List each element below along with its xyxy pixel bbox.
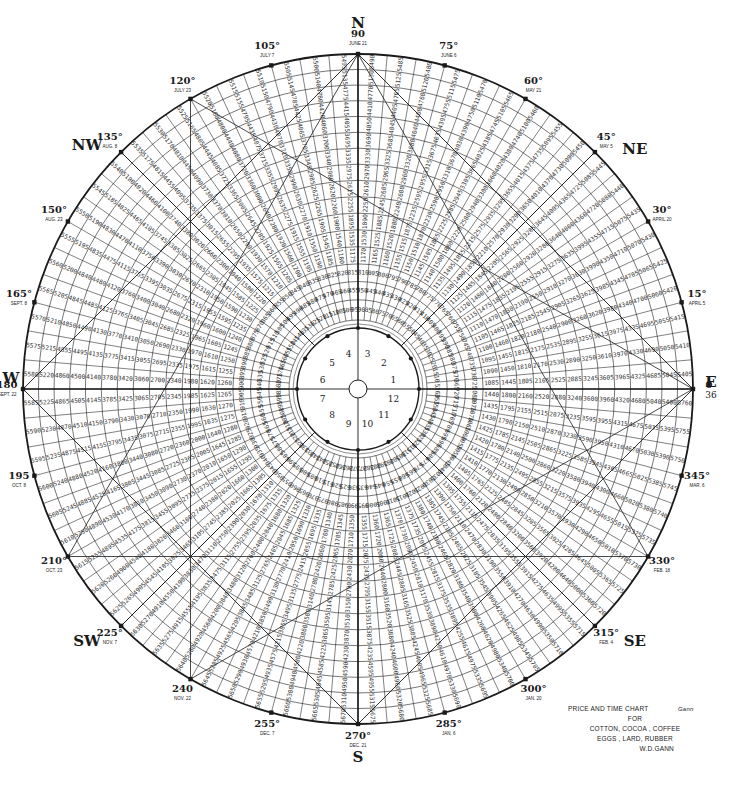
svg-text:3060: 3060: [134, 375, 149, 383]
svg-text:2850: 2850: [519, 489, 536, 503]
date-label: OCT. 8: [12, 483, 27, 488]
svg-text:4840: 4840: [76, 269, 93, 281]
svg-text:1625: 1625: [200, 391, 215, 399]
svg-text:2610: 2610: [362, 181, 370, 196]
svg-text:1805: 1805: [518, 377, 533, 385]
svg-text:3150: 3150: [344, 598, 352, 613]
sector-label: 6: [320, 375, 326, 385]
sector-label: 12: [388, 394, 399, 404]
svg-text:4150: 4150: [88, 418, 104, 427]
svg-text:1880: 1880: [388, 217, 398, 233]
svg-text:2520: 2520: [534, 392, 549, 400]
svg-text:2045: 2045: [273, 529, 286, 546]
svg-text:2055: 2055: [301, 540, 312, 557]
svg-text:3965: 3965: [615, 373, 630, 381]
svg-text:3355: 3355: [264, 165, 276, 182]
svg-text:5205: 5205: [53, 289, 70, 300]
svg-text:2080: 2080: [376, 547, 385, 563]
degree-label: 150°: [41, 204, 67, 215]
svg-text:1710: 1710: [347, 532, 355, 547]
svg-text:815: 815: [347, 268, 359, 276]
svg-text:4665: 4665: [617, 467, 634, 478]
svg-text:4220: 4220: [295, 639, 305, 655]
svg-text:2410: 2410: [281, 550, 293, 567]
svg-text:4340: 4340: [617, 298, 634, 309]
svg-text:2180: 2180: [525, 327, 542, 338]
svg-text:1990: 1990: [184, 406, 200, 415]
svg-text:2535: 2535: [545, 340, 561, 350]
svg-text:3145: 3145: [324, 596, 333, 612]
svg-text:4480: 4480: [91, 275, 108, 287]
svg-text:4060: 4060: [320, 119, 329, 135]
svg-text:2910: 2910: [542, 282, 559, 295]
svg-text:3875: 3875: [366, 630, 374, 645]
svg-text:3525: 3525: [404, 608, 414, 624]
svg-text:2500: 2500: [520, 453, 537, 465]
svg-text:1245: 1245: [223, 342, 240, 353]
svg-text:4435: 4435: [245, 121, 257, 138]
date-label: JAN. 20: [525, 696, 542, 701]
svg-text:1535: 1535: [348, 231, 356, 246]
svg-text:1350: 1350: [348, 515, 356, 530]
svg-text:2820: 2820: [445, 558, 458, 575]
svg-text:3170: 3170: [418, 587, 429, 604]
svg-text:5660: 5660: [281, 700, 291, 716]
svg-text:4835: 4835: [87, 245, 104, 258]
svg-text:810: 810: [357, 268, 369, 276]
author-signature: Gann: [678, 704, 693, 714]
svg-text:2405: 2405: [266, 543, 279, 560]
svg-text:1280: 1280: [222, 423, 239, 434]
date-label: SEPT. 22: [0, 392, 17, 397]
degree-label: 255°: [254, 718, 280, 729]
svg-text:4610: 4610: [437, 648, 448, 665]
svg-text:5465: 5465: [502, 90, 515, 107]
svg-text:1840: 1840: [482, 279, 498, 294]
price-time-wheel: 5101520253035404550556065707580859095100…: [0, 0, 737, 795]
svg-text:1685: 1685: [281, 514, 294, 531]
svg-text:3675: 3675: [426, 143, 437, 160]
svg-text:5570: 5570: [31, 312, 47, 322]
svg-text:5060: 5060: [647, 289, 664, 300]
svg-text:5520: 5520: [201, 90, 214, 107]
svg-text:4330: 4330: [628, 347, 644, 356]
svg-text:3890: 3890: [428, 618, 439, 635]
svg-text:1975: 1975: [184, 362, 200, 371]
svg-text:905: 905: [237, 388, 245, 400]
svg-text:2470: 2470: [463, 526, 478, 542]
svg-text:5210: 5210: [46, 316, 62, 326]
svg-text:805: 805: [367, 269, 379, 277]
svg-text:2880: 2880: [551, 393, 566, 401]
svg-text:3505: 3505: [322, 612, 331, 628]
svg-text:1240: 1240: [227, 331, 244, 343]
svg-text:2085: 2085: [390, 544, 400, 560]
svg-text:3685: 3685: [385, 134, 394, 150]
degree-label: 30°: [653, 204, 672, 215]
svg-text:3325: 3325: [383, 150, 392, 166]
svg-text:3955: 3955: [597, 416, 613, 425]
svg-text:2270: 2270: [298, 205, 309, 222]
svg-text:1520: 1520: [385, 233, 395, 249]
svg-text:5200: 5200: [62, 263, 79, 275]
compass-e: E: [705, 373, 716, 391]
svg-text:1965: 1965: [190, 332, 207, 343]
date-label: APRIL 20: [652, 217, 672, 222]
svg-text:1885: 1885: [375, 215, 384, 231]
svg-text:2800: 2800: [381, 580, 390, 596]
svg-text:5590: 5590: [26, 426, 42, 435]
svg-text:2680: 2680: [165, 305, 182, 317]
svg-text:2860: 2860: [535, 459, 552, 471]
svg-text:3160: 3160: [383, 596, 392, 612]
svg-text:1810: 1810: [516, 362, 532, 371]
svg-text:1165: 1165: [370, 248, 379, 264]
svg-text:2785: 2785: [327, 579, 336, 595]
svg-text:2280: 2280: [267, 217, 280, 234]
svg-text:1640: 1640: [206, 428, 223, 439]
degree-label: 300°: [521, 683, 547, 694]
svg-text:3335: 3335: [345, 149, 353, 164]
svg-text:2395: 2395: [238, 526, 253, 542]
svg-text:2265: 2265: [314, 201, 324, 217]
svg-text:4255: 4255: [454, 625, 466, 642]
svg-text:5325: 5325: [421, 685, 431, 701]
svg-text:4390: 4390: [458, 121, 470, 138]
svg-text:2255: 2255: [347, 197, 355, 212]
